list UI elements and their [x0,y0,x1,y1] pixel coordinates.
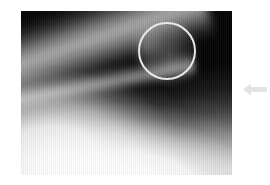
figure-caption [0,0,1,1]
radiograph-image [21,11,232,175]
radiograph-film-grain-layer [21,11,232,175]
pointer-arrow [243,82,267,97]
figure-root [0,0,270,185]
arrow-left-icon [243,82,267,97]
